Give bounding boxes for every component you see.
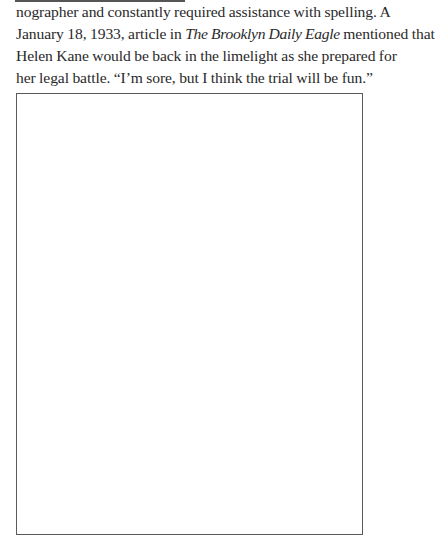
paragraph-line-1: nographer and constantly required assist…	[16, 1, 363, 23]
paragraph-line-3: Helen Kane would be back in the limeligh…	[16, 45, 363, 67]
body-paragraph: nographer and constantly required assist…	[16, 1, 363, 89]
paragraph-line-4: her legal battle. “I’m sore, but I think…	[16, 67, 363, 89]
figure-image-placeholder	[16, 93, 363, 535]
line-2-suffix: mentioned that	[340, 25, 435, 42]
line-2-prefix: January 18, 1933, article in	[16, 25, 185, 42]
paragraph-line-2: January 18, 1933, article in The Brookly…	[16, 23, 363, 45]
newspaper-title: The Brooklyn Daily Eagle	[185, 25, 340, 42]
